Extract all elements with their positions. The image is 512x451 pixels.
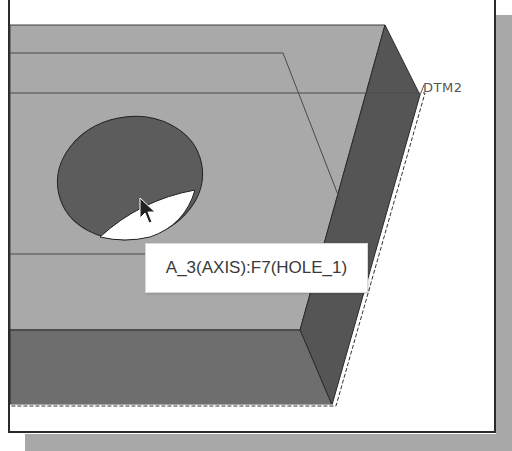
datum-label-dtm2[interactable]: DTM2 (423, 80, 462, 95)
front-face[interactable] (10, 330, 332, 405)
model-scene[interactable] (0, 0, 512, 451)
tooltip: A_3(AXIS):F7(HOLE_1) (145, 243, 368, 293)
tooltip-text: A_3(AXIS):F7(HOLE_1) (166, 258, 347, 278)
arrow-pointer-icon (138, 196, 158, 226)
